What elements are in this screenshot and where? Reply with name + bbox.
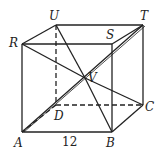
vertex-label-t: T xyxy=(140,10,148,22)
edge-length-label: 12 xyxy=(62,136,77,148)
vertex-label-b: B xyxy=(106,137,115,149)
cube-diagram xyxy=(0,0,162,155)
vertex-label-s: S xyxy=(106,29,114,41)
edge-bc xyxy=(112,105,143,132)
vertex-label-c: C xyxy=(145,101,154,113)
vertex-label-r: R xyxy=(9,37,18,49)
vertex-label-u: U xyxy=(49,10,59,22)
vertex-label-a: A xyxy=(14,137,23,149)
vertex-label-d: D xyxy=(54,110,64,122)
vertex-label-v: V xyxy=(88,72,97,84)
diagonal-at xyxy=(22,25,143,132)
edge-ru xyxy=(22,25,56,44)
diagonal-at-2 xyxy=(24,26,145,132)
